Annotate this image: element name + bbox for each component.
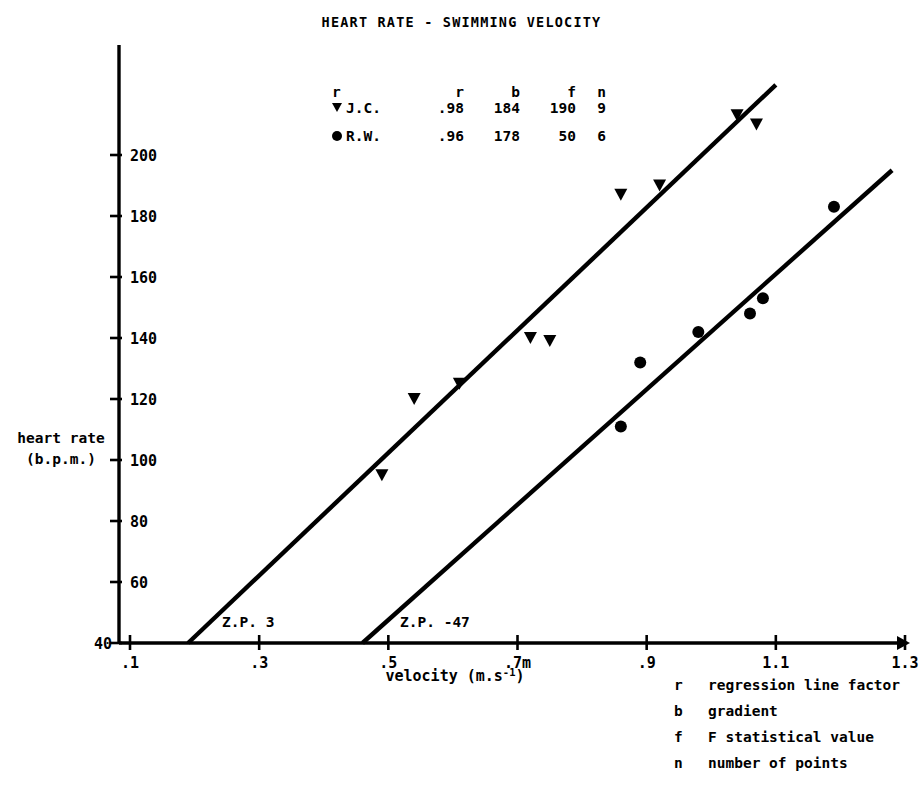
legend-row: R.W..96178506 bbox=[332, 128, 606, 144]
y-tick-label: 160 bbox=[130, 269, 157, 287]
regression-lines bbox=[188, 85, 892, 643]
y-axis-label-line1: heart rate bbox=[6, 428, 116, 449]
circle-marker-icon bbox=[332, 128, 346, 144]
y-tick-label: 200 bbox=[130, 147, 157, 165]
legend-header-n: n bbox=[576, 84, 606, 100]
x-axis-label-main: velocity (m.s bbox=[385, 667, 502, 685]
triangle-marker-icon bbox=[332, 100, 346, 116]
data-point-triangle bbox=[750, 119, 763, 131]
legend-row: J.C..981841909 bbox=[332, 100, 606, 128]
y-tick-label: 80 bbox=[130, 513, 148, 531]
legend-value-r: .98 bbox=[406, 100, 464, 128]
x-tick-label: 1.3 bbox=[891, 654, 918, 672]
legend-header-marker: r bbox=[332, 84, 406, 100]
legend-series-label: R.W. bbox=[346, 128, 381, 144]
legend-series-label: J.C. bbox=[346, 100, 381, 116]
x-tick-label: .9 bbox=[638, 654, 656, 672]
data-point-circle bbox=[744, 308, 756, 320]
data-point-triangle bbox=[408, 393, 421, 405]
data-point-triangle bbox=[543, 335, 556, 347]
data-point-circle bbox=[615, 420, 627, 432]
legend-table: r r b f n J.C..981841909R.W..96178506 bbox=[332, 84, 606, 144]
footnote-row: bgradient bbox=[674, 698, 900, 724]
y-axis-label-line2: (b.p.m.) bbox=[6, 449, 116, 470]
y-tick-label: 40 bbox=[94, 635, 112, 653]
legend-header-row: r r b f n bbox=[332, 84, 606, 100]
y-tick-label: 120 bbox=[130, 391, 157, 409]
y-tick-label: 100 bbox=[130, 452, 157, 470]
x-axis-arrow bbox=[897, 636, 910, 650]
x-axis-label: velocity (m.s-1) bbox=[310, 666, 600, 685]
footnote-key: b bbox=[674, 698, 708, 724]
footnote-row: fF statistical value bbox=[674, 724, 900, 750]
data-point-triangle bbox=[614, 189, 627, 201]
x-tick-label: 1.1 bbox=[762, 654, 789, 672]
legend-value-n: 9 bbox=[576, 100, 606, 128]
footnote-legend: rregression line factorbgradientfF stati… bbox=[674, 672, 900, 776]
annotation-zp-rw: Z.P. -47 bbox=[400, 614, 470, 630]
x-tick-label: .3 bbox=[250, 654, 268, 672]
legend-header-r: r bbox=[406, 84, 464, 100]
legend-header-b: b bbox=[464, 84, 520, 100]
footnote-row: rregression line factor bbox=[674, 672, 900, 698]
legend-header-f: f bbox=[520, 84, 576, 100]
legend-value-b: 184 bbox=[464, 100, 520, 128]
data-point-circle bbox=[634, 356, 646, 368]
legend-value-n: 6 bbox=[576, 128, 606, 144]
data-point-triangle bbox=[375, 469, 388, 481]
y-tick-label: 60 bbox=[130, 574, 148, 592]
legend: r r b f n J.C..981841909R.W..96178506 bbox=[332, 84, 606, 144]
footnote-text: regression line factor bbox=[708, 672, 900, 698]
y-tick-label: 140 bbox=[130, 330, 157, 348]
footnote-key: n bbox=[674, 750, 708, 776]
legend-value-r: .96 bbox=[406, 128, 464, 144]
footnote-text: gradient bbox=[708, 698, 778, 724]
x-tick-label: .1 bbox=[121, 654, 139, 672]
y-axis-label: heart rate (b.p.m.) bbox=[6, 428, 116, 470]
footnote-text: F statistical value bbox=[708, 724, 874, 750]
x-axis-label-exponent: -1 bbox=[503, 666, 516, 678]
legend-value-f: 50 bbox=[520, 128, 576, 144]
legend-value-b: 178 bbox=[464, 128, 520, 144]
data-point-circle bbox=[692, 326, 704, 338]
regression-line-rw bbox=[363, 170, 893, 643]
x-axis-label-tail: ) bbox=[516, 667, 525, 685]
footnote-key: f bbox=[674, 724, 708, 750]
legend-value-f: 190 bbox=[520, 100, 576, 128]
data-point-circle bbox=[828, 201, 840, 213]
y-axis-ticks: 406080100120140160180200 bbox=[94, 147, 157, 653]
annotation-zp-jc: Z.P. 3 bbox=[222, 614, 274, 630]
data-point-triangle bbox=[524, 332, 537, 344]
footnote-key: r bbox=[674, 672, 708, 698]
legend-series-name: R.W. bbox=[332, 128, 406, 144]
footnote-text: number of points bbox=[708, 750, 848, 776]
data-point-circle bbox=[757, 292, 769, 304]
footnote-row: nnumber of points bbox=[674, 750, 900, 776]
y-tick-label: 180 bbox=[130, 208, 157, 226]
chart-figure: HEART RATE - SWIMMING VELOCITY 406080100… bbox=[0, 0, 923, 797]
legend-series-name: J.C. bbox=[332, 100, 406, 128]
regression-line-jc bbox=[188, 85, 776, 643]
